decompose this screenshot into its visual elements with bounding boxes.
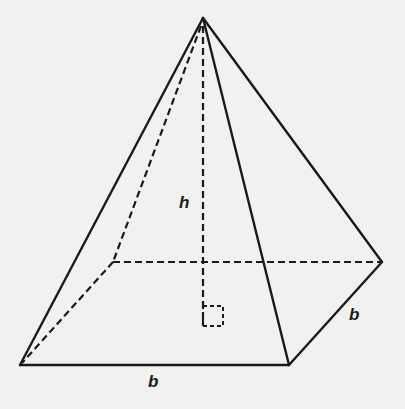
base-front-label: b xyxy=(148,372,158,392)
edge-apex-back-right xyxy=(203,18,382,262)
edge-apex-front-left xyxy=(20,18,203,365)
height-label: h xyxy=(179,193,189,213)
right-angle-marker xyxy=(203,306,223,326)
base-side-label: b xyxy=(349,305,359,325)
pyramid-diagram: h b b xyxy=(0,0,405,409)
edge-base-right xyxy=(289,262,382,365)
pyramid-figure xyxy=(0,0,405,409)
edge-apex-front-right xyxy=(203,18,289,365)
hidden-edge-apex-back-left xyxy=(113,26,201,262)
